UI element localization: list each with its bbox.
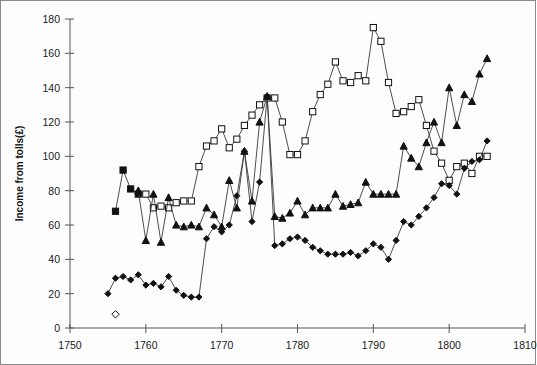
data-point [105,291,111,297]
data-point [385,256,391,262]
data-point [416,97,422,103]
data-point [135,272,141,278]
data-point [438,181,444,187]
data-point [484,138,490,144]
data-point [120,273,126,279]
y-tick-label: 40 [48,253,60,265]
data-point [279,119,285,125]
x-tick-label: 1750 [58,339,82,351]
data-point [211,138,217,144]
data-point [272,95,278,101]
data-point [484,153,490,159]
x-tick-label: 1800 [437,339,461,351]
x-tick-label: 1760 [134,339,158,351]
x-tick-label: 1810 [513,339,537,351]
x-tick-label: 1780 [286,339,310,351]
data-point [378,244,384,250]
data-point [165,273,171,279]
data-point [332,59,338,65]
data-point [454,164,460,170]
data-point [150,190,157,197]
data-point [120,167,126,173]
data-point [385,79,391,85]
data-point [461,91,468,98]
data-point [287,236,293,242]
data-point [431,194,437,200]
data-point [325,251,331,257]
data-point [271,213,278,220]
data-point [249,218,255,224]
series-line [146,28,487,208]
data-point [401,109,407,115]
data-point [249,112,255,118]
data-point [347,249,353,255]
data-point [203,204,210,211]
data-point [446,84,453,91]
data-point [332,190,339,197]
y-tick-label: 20 [48,288,60,300]
data-point [279,241,285,247]
data-point [211,224,217,230]
data-point [347,79,353,85]
y-axis-title: Income from tolls(£) [14,126,25,222]
data-point [476,70,483,77]
data-point [393,237,399,243]
data-point [363,78,369,84]
data-point [317,91,323,97]
data-point [340,251,346,257]
data-point [332,251,338,257]
y-tick-label: 0 [54,322,60,334]
data-point [256,179,262,185]
data-point [165,194,172,201]
y-tick-label: 160 [42,47,60,59]
data-point [173,287,179,293]
data-point [294,234,300,240]
data-point [188,198,194,204]
x-tick-label: 1790 [362,339,386,351]
y-tick-label: 60 [48,219,60,231]
data-point [469,170,475,176]
data-point [423,139,430,146]
x-tick-label: 1770 [210,339,234,351]
data-point [143,282,149,288]
data-point [393,110,399,116]
data-point [218,223,225,230]
data-point [483,55,490,62]
data-point [112,275,118,281]
y-tick-label: 140 [42,82,60,94]
data-point [158,203,164,209]
data-point [302,138,308,144]
data-point [173,200,179,206]
data-point [378,38,384,44]
data-point [135,187,142,194]
data-point [325,81,331,87]
data-point [128,186,134,192]
data-point [431,148,437,154]
data-point [181,198,187,204]
data-point [226,177,233,184]
data-point [158,284,164,290]
data-point [340,78,346,84]
data-point [355,199,362,206]
data-point [112,311,119,318]
line-chart: 0204060801001201401601801750176017701780… [1,1,537,365]
data-point [188,294,194,300]
data-point [317,248,323,254]
data-point [173,221,180,228]
series-stretton [143,24,490,210]
data-point [453,122,460,129]
data-point [438,139,445,146]
data-point [272,243,278,249]
data-point [355,73,361,79]
data-point [256,118,263,125]
data-point [294,152,300,158]
data-point [143,191,149,197]
data-point [188,221,195,228]
data-point [196,164,202,170]
data-point [219,126,225,132]
data-point [438,160,444,166]
data-point [112,208,118,214]
data-point [430,118,437,125]
y-tick-label: 120 [42,116,60,128]
